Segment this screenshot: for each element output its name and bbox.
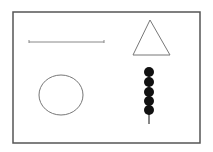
bead-stick-shape: [144, 67, 154, 124]
triangle-shape: [133, 20, 170, 55]
horizontal-line-shape: [29, 40, 104, 43]
circle-shape: [39, 75, 83, 115]
diagram-canvas: [0, 0, 213, 152]
frame-border: [13, 12, 200, 143]
